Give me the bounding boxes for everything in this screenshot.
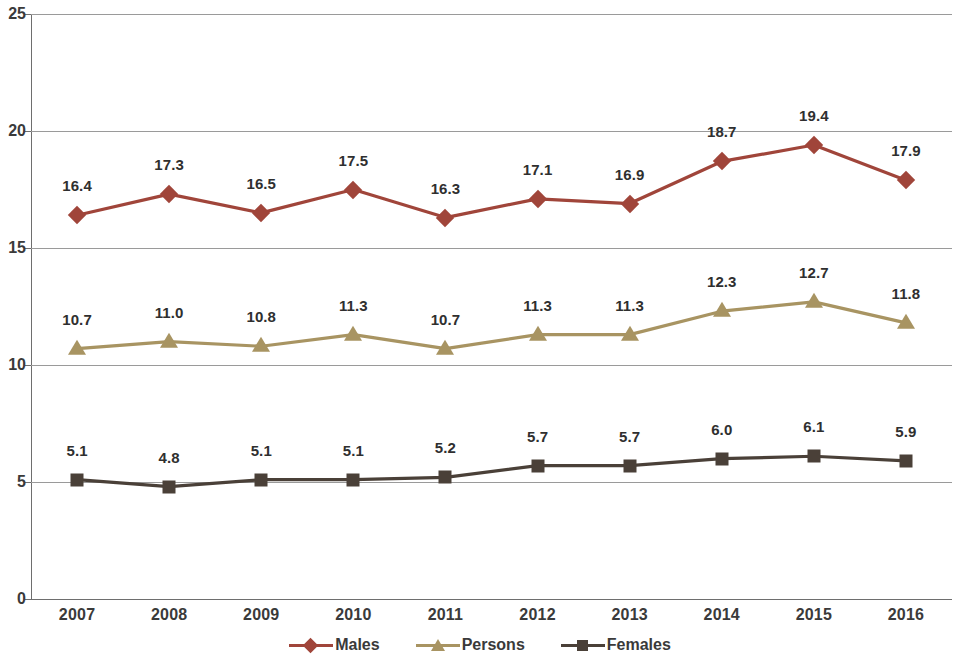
legend-item-females[interactable]: Females [561, 636, 671, 654]
data-label-females: 6.1 [779, 418, 849, 435]
y-tick-mark [25, 482, 31, 483]
legend-swatch-triangle-icon [416, 637, 460, 653]
data-label-females: 5.9 [871, 423, 941, 440]
data-marker-males [713, 152, 731, 170]
y-tick-mark [25, 131, 31, 132]
x-axis-tick-label: 2007 [32, 606, 122, 624]
data-marker-males [805, 136, 823, 154]
legend-label: Males [335, 636, 379, 654]
x-axis-tick-label: 2012 [493, 606, 583, 624]
x-axis-tick-label: 2016 [861, 606, 951, 624]
data-marker-females [347, 473, 360, 486]
data-marker-males [252, 204, 270, 222]
data-label-males: 17.1 [503, 161, 573, 178]
data-label-persons: 11.8 [871, 285, 941, 302]
legend-marker-diamond-icon [303, 638, 319, 654]
data-label-males: 19.4 [779, 107, 849, 124]
data-label-males: 17.9 [871, 142, 941, 159]
line-chart: 0510152025 16.417.316.517.516.317.116.91… [0, 0, 960, 663]
data-label-males: 16.3 [410, 180, 480, 197]
data-points-layer: 16.417.316.517.516.317.116.918.719.417.9… [0, 0, 960, 663]
data-marker-females [163, 480, 176, 493]
series-line-persons [77, 302, 906, 349]
series-lines [0, 0, 960, 663]
data-label-males: 17.3 [134, 156, 204, 173]
data-label-persons: 10.8 [226, 308, 296, 325]
data-marker-females [71, 473, 84, 486]
data-label-males: 16.5 [226, 175, 296, 192]
data-marker-males [528, 190, 546, 208]
data-marker-females [255, 473, 268, 486]
data-marker-males [897, 171, 915, 189]
legend-swatch-diamond-icon [289, 637, 333, 653]
gridline [31, 14, 952, 15]
x-axis-tick-label: 2010 [308, 606, 398, 624]
data-marker-males [620, 194, 638, 212]
data-marker-persons [160, 332, 178, 347]
data-label-persons: 11.3 [318, 297, 388, 314]
data-marker-persons [344, 325, 362, 340]
gridline [31, 131, 952, 132]
y-axis-tick-label: 10 [0, 356, 26, 374]
legend-item-persons[interactable]: Persons [416, 636, 525, 654]
grid-layer [0, 0, 960, 663]
data-label-females: 5.7 [503, 428, 573, 445]
gridline [31, 599, 952, 600]
y-axis-tick-label: 5 [0, 473, 26, 491]
data-label-males: 17.5 [318, 152, 388, 169]
x-axis-tick-label: 2011 [400, 606, 490, 624]
series-line-females [77, 456, 906, 486]
data-label-persons: 12.7 [779, 264, 849, 281]
data-marker-females [531, 459, 544, 472]
data-marker-persons [436, 339, 454, 354]
data-label-males: 16.9 [595, 166, 665, 183]
x-axis-tick-label: 2009 [216, 606, 306, 624]
data-marker-persons [252, 337, 270, 352]
legend-item-males[interactable]: Males [289, 636, 379, 654]
data-label-females: 5.7 [595, 428, 665, 445]
data-label-persons: 10.7 [42, 311, 112, 328]
data-label-females: 6.0 [687, 421, 757, 438]
data-label-males: 16.4 [42, 177, 112, 194]
data-marker-females [807, 450, 820, 463]
data-marker-persons [529, 325, 547, 340]
data-marker-males [344, 180, 362, 198]
y-axis-spine [31, 14, 32, 599]
data-label-females: 5.2 [410, 439, 480, 456]
y-tick-mark [25, 599, 31, 600]
data-marker-males [160, 185, 178, 203]
data-marker-females [623, 459, 636, 472]
legend-marker-square-icon [577, 640, 588, 651]
y-axis-tick-label: 25 [0, 5, 26, 23]
data-label-persons: 11.3 [595, 297, 665, 314]
x-axis-tick-label: 2008 [124, 606, 214, 624]
data-marker-persons [713, 302, 731, 317]
series-line-males [77, 145, 906, 218]
data-label-females: 5.1 [318, 442, 388, 459]
chart-legend: MalesPersonsFemales [0, 636, 960, 654]
data-marker-females [715, 452, 728, 465]
y-tick-mark [25, 14, 31, 15]
data-marker-persons [897, 314, 915, 329]
data-label-males: 18.7 [687, 123, 757, 140]
y-axis-tick-label: 15 [0, 239, 26, 257]
data-label-females: 4.8 [134, 449, 204, 466]
x-axis-tick-label: 2015 [769, 606, 859, 624]
x-axis-tick-label: 2013 [585, 606, 675, 624]
legend-marker-triangle-icon [431, 639, 445, 651]
y-tick-mark [25, 248, 31, 249]
y-axis-tick-label: 0 [0, 590, 26, 608]
y-axis-labels: 0510152025 [0, 0, 960, 663]
data-label-persons: 11.3 [503, 297, 573, 314]
data-label-persons: 10.7 [410, 311, 480, 328]
data-label-persons: 12.3 [687, 273, 757, 290]
y-axis-tick-label: 20 [0, 122, 26, 140]
data-marker-persons [621, 325, 639, 340]
data-label-females: 5.1 [226, 442, 296, 459]
data-label-persons: 11.0 [134, 304, 204, 321]
data-marker-males [436, 208, 454, 226]
data-marker-persons [68, 339, 86, 354]
data-marker-females [899, 454, 912, 467]
data-label-females: 5.1 [42, 442, 112, 459]
y-tick-mark [25, 365, 31, 366]
